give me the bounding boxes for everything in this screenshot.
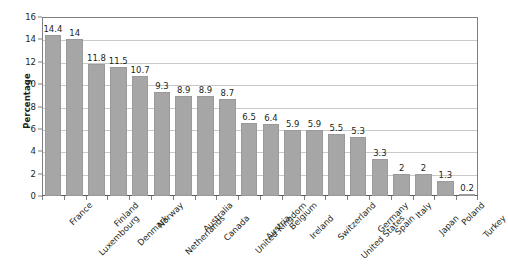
bar-slot[interactable]: 0.2 <box>456 17 478 196</box>
bar-slot[interactable]: 5.9 <box>304 17 326 196</box>
bar-slot[interactable]: 1.3 <box>434 17 456 196</box>
bar-slot[interactable]: 6.4 <box>260 17 282 196</box>
bar-slot[interactable]: 8.7 <box>216 17 238 196</box>
x-axis-category-labels: FranceLuxembourgFinlandDenmarkNorwayNeth… <box>42 200 478 268</box>
bar-value-label: 0.2 <box>460 184 474 193</box>
bar-slot[interactable]: 6.5 <box>238 17 260 196</box>
bar-value-label: 8.7 <box>221 89 235 98</box>
y-axis-tick-label: 12 <box>25 57 36 67</box>
bar[interactable] <box>45 35 62 196</box>
bar-slot[interactable]: 3.3 <box>369 17 391 196</box>
bar[interactable] <box>110 67 127 196</box>
x-axis-category-label: Poland <box>460 200 487 227</box>
bar-slot[interactable]: 10.7 <box>129 17 151 196</box>
y-axis-tick-label: 4 <box>31 146 36 156</box>
bar-value-label: 5.9 <box>286 120 300 129</box>
bar[interactable] <box>154 92 171 196</box>
bar[interactable] <box>306 130 323 196</box>
x-axis-category-label: Switzerland <box>335 200 377 242</box>
bar-slot[interactable]: 11.8 <box>86 17 108 196</box>
bar[interactable] <box>88 64 105 196</box>
bar-value-label: 5.3 <box>351 127 365 136</box>
bar-value-label: 9.3 <box>155 82 169 91</box>
bar-value-label: 6.5 <box>242 113 256 122</box>
y-axis-tick-labels: 1614121086420 <box>0 17 42 196</box>
bar-value-label: 14.4 <box>43 25 62 34</box>
y-axis-tick-label: 6 <box>31 124 36 134</box>
bar-value-label: 11.5 <box>109 57 128 66</box>
x-axis-category-label: Japan <box>437 213 461 237</box>
bar-value-label: 10.7 <box>131 66 150 75</box>
bar-slot[interactable]: 14 <box>64 17 86 196</box>
bar[interactable] <box>393 174 410 196</box>
bar-value-label: 8.9 <box>199 86 213 95</box>
bar-value-label: 8.9 <box>177 86 191 95</box>
bar-value-label: 5.9 <box>308 120 322 129</box>
bar-slot[interactable]: 5.3 <box>347 17 369 196</box>
x-axis-category-label: Canada <box>221 213 251 243</box>
y-axis-tick-label: 14 <box>25 34 36 44</box>
x-axis-category-label: Turkey <box>481 213 508 240</box>
bar-slot[interactable]: 14.4 <box>42 17 64 196</box>
bar[interactable] <box>241 123 258 196</box>
bar-slot[interactable]: 8.9 <box>195 17 217 196</box>
bar[interactable] <box>328 134 345 196</box>
y-axis-tick-label: 2 <box>31 169 36 179</box>
bar[interactable] <box>219 99 236 196</box>
bar-value-label: 6.4 <box>264 114 278 123</box>
y-axis-tick-label: 10 <box>25 79 36 89</box>
bar-value-label: 3.3 <box>373 149 387 158</box>
bar[interactable] <box>415 174 432 196</box>
bar-value-label: 2 <box>421 164 426 173</box>
bar-slot[interactable]: 5.5 <box>325 17 347 196</box>
bar[interactable] <box>66 39 83 196</box>
x-axis-category-label: France <box>67 200 94 227</box>
y-axis-tick-label: 0 <box>31 191 36 201</box>
bar-value-label: 5.5 <box>330 124 344 133</box>
bar-slot[interactable]: 9.3 <box>151 17 173 196</box>
bar-value-label: 14 <box>69 29 80 38</box>
bar-value-label: 11.8 <box>87 54 106 63</box>
bar[interactable] <box>132 76 149 196</box>
bar[interactable] <box>175 96 192 196</box>
bar[interactable] <box>437 181 454 196</box>
bar-value-label: 2 <box>399 164 404 173</box>
bar[interactable] <box>197 96 214 196</box>
bar-slot[interactable]: 5.9 <box>282 17 304 196</box>
bar[interactable] <box>350 137 367 196</box>
bar[interactable] <box>372 159 389 196</box>
y-axis-tick-label: 8 <box>31 102 36 112</box>
bar-slot[interactable]: 2 <box>391 17 413 196</box>
y-axis-tick-label: 16 <box>25 12 36 22</box>
bar[interactable] <box>263 124 280 196</box>
bar-slot[interactable]: 2 <box>413 17 435 196</box>
x-axis-category-label: Ireland <box>307 213 335 241</box>
bar-slot[interactable]: 11.5 <box>107 17 129 196</box>
bar-slot[interactable]: 8.9 <box>173 17 195 196</box>
x-axis-category-label: Italy <box>413 200 433 220</box>
bar-value-label: 1.3 <box>439 171 453 180</box>
bar-series: 14.41411.811.510.79.38.98.98.76.56.45.95… <box>42 17 478 196</box>
bar[interactable] <box>284 130 301 196</box>
